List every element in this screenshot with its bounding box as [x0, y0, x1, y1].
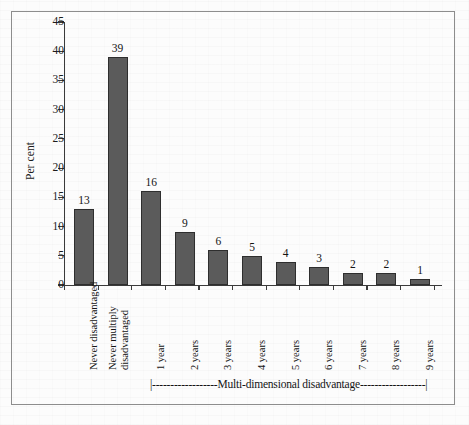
bar — [309, 267, 329, 285]
x-axis-tick — [299, 285, 300, 290]
x-axis-tick — [266, 285, 267, 290]
bar — [74, 209, 94, 285]
y-axis-tick-label-text: 25 — [34, 133, 64, 145]
bar — [343, 273, 363, 285]
y-axis-tick-label: 10 — [22, 221, 64, 233]
bar — [410, 279, 430, 285]
bar-value-label: 3 — [303, 252, 335, 264]
bar-value-label: 13 — [68, 194, 100, 206]
bar — [242, 256, 262, 285]
bar-value-label: 2 — [337, 258, 369, 270]
figure-container: Per cent 051015202530354045 133916965432… — [0, 0, 469, 425]
y-axis-tick-label-text: 10 — [34, 221, 64, 233]
bar — [108, 57, 128, 285]
y-axis-tick-label-text: 40 — [34, 45, 64, 57]
y-axis-tick-label: 35 — [22, 74, 64, 86]
y-axis-tick-label-text: 45 — [34, 16, 64, 28]
bar-value-label: 6 — [202, 235, 234, 247]
x-axis-category-label: 7 years — [357, 340, 369, 370]
bar-value-label: 16 — [135, 176, 167, 188]
x-axis-category-label: 9 years — [424, 340, 436, 370]
bar-value-label: 1 — [404, 264, 436, 276]
x-axis-category-label: Never multiplydisadvantaged — [107, 274, 130, 370]
multi-dimensional-disadvantage-bracket: |------------------Multi-dimensional dis… — [150, 376, 426, 392]
x-axis-tick — [131, 285, 132, 290]
y-axis-tick-label: 45 — [22, 16, 64, 28]
plot-area: Per cent 051015202530354045 133916965432… — [0, 0, 469, 425]
bar-value-label: 39 — [102, 42, 134, 54]
x-axis-category-label: 6 years — [323, 340, 335, 370]
x-axis-category-label: 5 years — [290, 340, 302, 370]
x-axis-category-label: 8 years — [390, 340, 402, 370]
y-axis-tick-label-text: 15 — [34, 191, 64, 203]
x-axis-tick — [333, 285, 334, 290]
x-axis-tick — [165, 285, 166, 290]
bar-value-label: 5 — [236, 241, 268, 253]
x-axis-tick — [64, 285, 65, 290]
x-axis-tick — [434, 285, 435, 290]
x-axis-category-label: 2 years — [189, 340, 201, 370]
y-axis-tick-label-text: 5 — [34, 250, 64, 262]
bar — [276, 262, 296, 285]
y-axis-line — [64, 22, 65, 286]
y-axis-tick-label-text: 0 — [34, 279, 64, 291]
bar — [376, 273, 396, 285]
x-axis-tick — [198, 285, 199, 290]
y-axis-tick-label: 40 — [22, 45, 64, 57]
y-axis-tick-label: 25 — [22, 133, 64, 145]
x-axis-tick — [366, 285, 367, 290]
bar — [175, 232, 195, 285]
y-axis-tick-label: 0 — [22, 279, 64, 291]
x-axis-tick — [400, 285, 401, 290]
bar-value-label: 4 — [270, 247, 302, 259]
x-axis-tick — [232, 285, 233, 290]
x-axis-category-label: 3 years — [222, 340, 234, 370]
bar-value-label: 9 — [169, 217, 201, 229]
x-axis-category-label: 4 years — [256, 340, 268, 370]
y-axis-tick-label-text: 30 — [34, 104, 64, 116]
y-axis-tick-label: 5 — [22, 250, 64, 262]
bar — [208, 250, 228, 285]
y-axis-tick-label: 30 — [22, 104, 64, 116]
y-axis-tick-label-text: 35 — [34, 74, 64, 86]
x-axis-category-label: 1 year — [155, 344, 167, 370]
bar — [141, 191, 161, 285]
x-axis-category-label: Never disadvantaged — [88, 282, 100, 370]
y-axis-tick-label: 15 — [22, 191, 64, 203]
y-axis-tick-label: 20 — [22, 162, 64, 174]
y-axis-tick-label-text: 20 — [34, 162, 64, 174]
bar-value-label: 2 — [370, 258, 402, 270]
